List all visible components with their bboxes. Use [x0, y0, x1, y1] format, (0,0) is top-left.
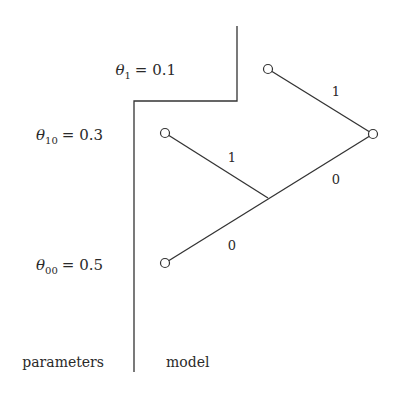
- edge-label-junction-root: 0: [332, 172, 340, 187]
- node-theta00: [161, 259, 170, 268]
- node-theta10: [161, 129, 170, 138]
- parameter-model-diagram: θ1= 0.1 θ10= 0.3 θ00= 0.5 1 1 0 0 parame…: [0, 0, 399, 395]
- edge-label-theta00: 0: [228, 238, 236, 253]
- edge-theta1-root: [268, 69, 373, 134]
- node-theta1: [264, 65, 273, 74]
- edge-label-theta1-root: 1: [332, 84, 340, 99]
- caption-model: model: [166, 354, 210, 370]
- edge-label-theta10: 1: [228, 150, 236, 165]
- param-label-theta10: θ10= 0.3: [36, 126, 103, 146]
- node-root: [369, 130, 378, 139]
- param-label-theta1: θ1= 0.1: [115, 61, 176, 81]
- edge-theta10-junction: [165, 133, 268, 198]
- param-label-theta00: θ00= 0.5: [36, 256, 103, 276]
- caption-parameters: parameters: [22, 354, 104, 370]
